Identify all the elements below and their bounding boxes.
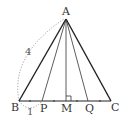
dimension-arc-ab (18, 19, 64, 101)
segment-ap (42, 19, 66, 101)
side-ac (66, 19, 111, 101)
segment-aq (66, 19, 88, 101)
tick-bp (29, 100, 31, 102)
label-b: B (11, 101, 19, 114)
label-a: A (61, 5, 71, 18)
tick-qc (99, 100, 101, 102)
label-c: C (111, 101, 119, 114)
right-angle-marker (66, 96, 71, 101)
label-q: Q (85, 102, 94, 115)
tick-mq (76, 100, 78, 102)
triangle-diagram: A B C P M Q 4 1 (0, 0, 125, 127)
side-ab (19, 19, 66, 101)
length-label-bp: 1 (27, 106, 33, 117)
label-m: M (61, 102, 72, 115)
tick-pm (53, 100, 55, 102)
length-label-ab: 4 (25, 46, 31, 57)
label-p: P (40, 102, 48, 115)
